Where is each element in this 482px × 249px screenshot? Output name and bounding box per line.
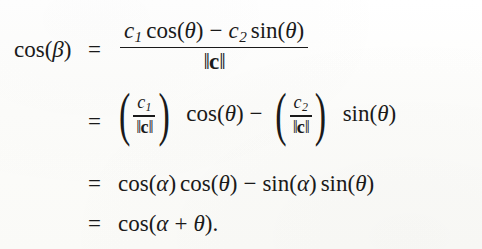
c1-symbol: c [124, 18, 134, 43]
equals-sign-line-4: = [88, 212, 101, 235]
first-term-group: ( c1 ‖c‖ ) [118, 93, 171, 138]
second-term-subscript: 2 [302, 100, 308, 114]
line-1-right-hand-side: c1cos(θ)−c2sin(θ) ‖c‖ [118, 18, 310, 75]
minus-operator-numerator: − [210, 18, 223, 43]
line-3-cos-alpha-label: cos [118, 171, 149, 196]
vector-c-symbol: c [209, 49, 219, 74]
second-term-numerator: c2 [291, 93, 311, 115]
c2-subscript: 2 [239, 28, 247, 45]
theta-symbol-cos-line3: θ [218, 171, 229, 196]
line-3-cos-theta-label: cos [180, 171, 211, 196]
line-3-sin-alpha-open: ( [289, 171, 297, 196]
equals-sign-line-2: = [88, 110, 101, 133]
line-3-minus-operator: − [243, 171, 256, 196]
second-term-close-paren: ) [315, 86, 326, 146]
first-term-subscript: 1 [146, 100, 152, 114]
line-4-right-hand-side: cos(α+θ). [118, 212, 218, 235]
line-3-cos-alpha-close: ) [168, 171, 176, 196]
line-3-sin-alpha-close: ) [309, 171, 317, 196]
fraction-denominator: ‖c‖ [200, 48, 229, 74]
sin-label-numerator: sin [251, 18, 278, 43]
second-term-c-symbol: c [294, 92, 302, 112]
terminal-period: . [212, 211, 218, 236]
theta-symbol-sin-line3: θ [355, 171, 366, 196]
line-3-sin-theta-close: ) [367, 171, 375, 196]
line-3-sin-theta-label: sin [321, 171, 348, 196]
equals-sign-line-1: = [88, 38, 101, 61]
first-term-fraction: c1 ‖c‖ [133, 93, 155, 138]
norm-right-bars: ‖ [219, 49, 224, 74]
plus-operator: + [174, 211, 187, 236]
line-2-sin-close-paren: ) [388, 101, 396, 126]
alpha-symbol-result: α [156, 211, 168, 236]
first-term-c-symbol: c [137, 92, 145, 112]
line-2-right-hand-side: ( c1 ‖c‖ ) cos(θ)− ( c2 ‖c‖ ) sin(θ) [118, 93, 396, 138]
lhs-close-paren: ) [64, 37, 72, 62]
line-3-right-hand-side: cos(α)cos(θ)−sin(α)sin(θ) [118, 172, 374, 195]
theta-symbol-sin: θ [285, 18, 296, 43]
second-term-norm-right: ‖ [305, 117, 309, 137]
cos-close-paren-numerator: ) [196, 18, 204, 43]
c2-symbol: c [229, 18, 239, 43]
alpha-symbol-cos: α [156, 171, 168, 196]
second-term-vector-c: c [297, 117, 305, 137]
line-3-sin-alpha-label: sin [262, 171, 289, 196]
equals-sign-line-3: = [88, 172, 101, 195]
beta-symbol: β [52, 37, 63, 62]
cos-open-paren-numerator: ( [177, 18, 185, 43]
line-4-cos-label: cos [118, 211, 149, 236]
line-2-sin-theta: θ [377, 101, 388, 126]
line-2-sin-label: sin [343, 101, 370, 126]
line-3-cos-theta-close: ) [230, 171, 238, 196]
first-term-denominator: ‖c‖ [133, 117, 155, 138]
main-fraction: c1cos(θ)−c2sin(θ) ‖c‖ [120, 18, 308, 75]
theta-symbol-cos: θ [185, 18, 196, 43]
fraction-numerator: c1cos(θ)−c2sin(θ) [120, 18, 308, 47]
line-2-cos-label: cos [186, 101, 217, 126]
first-term-open-paren: ( [119, 86, 130, 146]
first-term-close-paren: ) [158, 86, 169, 146]
cos-function-label: cos [14, 37, 45, 62]
line-2-cos-theta: θ [225, 101, 236, 126]
alpha-symbol-sin: α [297, 171, 309, 196]
second-term-fraction: c2 ‖c‖ [290, 93, 312, 138]
second-term-group: ( c2 ‖c‖ ) [274, 93, 327, 138]
line-2-cos-open-paren: ( [217, 101, 225, 126]
cos-label-numerator: cos [146, 18, 177, 43]
second-term-denominator: ‖c‖ [290, 117, 312, 138]
line-2-cos-close-paren: ) [236, 101, 244, 126]
sin-close-paren-numerator: ) [297, 18, 305, 43]
second-term-open-paren: ( [275, 86, 286, 146]
first-term-numerator: c1 [134, 93, 154, 115]
line-2-sin-open-paren: ( [369, 101, 377, 126]
line-2-minus-operator: − [250, 101, 263, 126]
equation-block: cos(β) = c1cos(θ)−c2sin(θ) ‖c‖ = ( c1 ‖c… [0, 0, 482, 249]
theta-symbol-result: θ [193, 211, 204, 236]
first-term-norm-right: ‖ [148, 117, 152, 137]
c1-subscript: 1 [135, 28, 143, 45]
left-hand-side: cos(β) [14, 38, 71, 61]
